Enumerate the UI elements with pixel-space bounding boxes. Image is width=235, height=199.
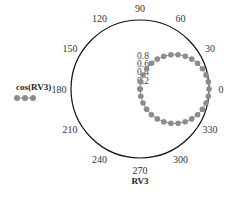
data-point-marker — [168, 121, 174, 127]
data-point-marker — [189, 116, 195, 122]
angular-tick-label: 270 — [133, 165, 148, 176]
data-point-marker — [144, 66, 150, 72]
data-point-marker — [200, 107, 206, 113]
data-point-marker — [138, 79, 144, 85]
angular-tick-label: 150 — [62, 43, 77, 54]
radial-tick-label: 0.8 — [137, 51, 149, 61]
data-point-marker — [206, 93, 212, 99]
data-point-marker — [155, 116, 161, 122]
angular-tick-label: 30 — [205, 43, 215, 54]
angular-tick-label: 60 — [176, 13, 186, 24]
data-point-marker — [195, 61, 201, 67]
data-point-marker — [140, 100, 146, 106]
legend-label: cos(RV3) — [16, 82, 51, 92]
legend-marker-icon — [14, 95, 36, 101]
data-point-marker — [203, 100, 209, 106]
data-point-marker — [138, 93, 144, 99]
angular-tick-label: 180 — [52, 84, 67, 95]
angular-tick-label: 0 — [219, 84, 224, 95]
data-point-marker — [137, 86, 143, 92]
data-point-marker — [168, 52, 174, 58]
data-point-marker — [161, 53, 167, 59]
x-axis-title: RV3 — [131, 176, 149, 186]
data-point-marker — [200, 66, 206, 72]
data-point-marker — [155, 56, 161, 62]
angular-tick-label: 210 — [62, 124, 77, 135]
angular-tick-label: 300 — [173, 154, 188, 165]
data-point-marker — [149, 112, 155, 118]
data-point-marker — [182, 53, 188, 59]
polar-chart: 0306090120150180210240270300330 0.20.40.… — [0, 0, 235, 199]
data-point-marker — [206, 86, 212, 92]
angular-tick-label: 240 — [92, 154, 107, 165]
angular-tick-label: 120 — [92, 13, 107, 24]
data-point-marker — [206, 79, 212, 85]
data-point-marker — [182, 119, 188, 125]
data-point-marker — [175, 52, 181, 58]
data-point-marker — [195, 112, 201, 118]
angular-tick-label: 90 — [135, 3, 145, 14]
data-point-marker — [140, 72, 146, 78]
data-point-marker — [161, 119, 167, 125]
data-point-marker — [175, 121, 181, 127]
data-point-marker — [203, 72, 209, 78]
data-point-marker — [189, 56, 195, 62]
data-point-marker — [144, 107, 150, 113]
data-point-marker — [149, 61, 155, 67]
angular-tick-label: 330 — [203, 124, 218, 135]
